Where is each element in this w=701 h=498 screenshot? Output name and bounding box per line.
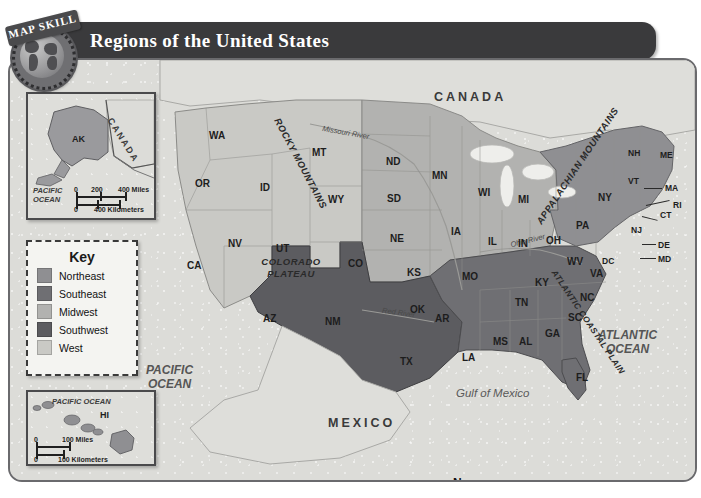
ak-scale-k400: 400 Kilometers [94, 206, 144, 213]
alaska-pacific-label: PACIFIC OCEAN [33, 186, 62, 204]
key-title: Key [28, 249, 136, 265]
key-row-southeast: Southeast [37, 286, 136, 301]
key-label-northeast: Northeast [59, 270, 105, 282]
key-label-southeast: Southeast [59, 288, 106, 300]
alaska-scale-bar: 0 200 400 Miles 0 400 Kilometers [76, 186, 152, 214]
hawaii-inset-map[interactable]: PACIFIC OCEAN HI 0 100 Miles 0 100 Kilom… [26, 390, 156, 466]
map-key: Key NortheastSoutheastMidwestSouthwestWe… [26, 240, 138, 376]
key-row-midwest: Midwest [37, 304, 136, 319]
alaska-inset-map[interactable]: AK CANADA PACIFIC OCEAN 0 200 400 Miles … [26, 92, 156, 220]
key-rows: NortheastSoutheastMidwestSouthwestWest [28, 268, 136, 355]
key-label-southwest: Southwest [59, 324, 108, 336]
hi-scale-m0: 0 [34, 436, 38, 443]
hawaii-state-label: HI [100, 410, 109, 420]
leader-line-md [640, 258, 656, 259]
key-swatch-southeast [37, 286, 52, 301]
key-row-west: West [37, 340, 136, 355]
map-page: MAP SKILL Regions of the United States [0, 0, 701, 498]
compass-rose: N [435, 478, 487, 482]
ak-scale-m0: 0 [74, 186, 78, 193]
key-row-southwest: Southwest [37, 322, 136, 337]
key-row-northeast: Northeast [37, 268, 136, 283]
hi-scale-m100: 100 Miles [62, 436, 93, 443]
leader-line-ma [644, 188, 662, 189]
ak-scale-m400: 400 Miles [118, 186, 149, 193]
badge-ribbon-label: MAP SKILL [5, 11, 80, 41]
hi-scale-k100: 100 Kilometers [58, 456, 108, 463]
page-title: Regions of the United States [90, 30, 329, 52]
key-swatch-southwest [37, 322, 52, 337]
hawaii-scale-bar: 0 100 Miles 0 100 Kilometers [36, 436, 120, 462]
title-bar: Regions of the United States [56, 22, 656, 60]
ak-scale-m200: 200 [91, 186, 103, 193]
key-swatch-west [37, 340, 52, 355]
ak-scale-k0: 0 [74, 206, 78, 213]
hawaii-pacific-label: PACIFIC OCEAN [52, 397, 111, 406]
key-swatch-midwest [37, 304, 52, 319]
map-skill-badge: MAP SKILL [4, 10, 82, 88]
hi-scale-k0: 0 [34, 456, 38, 463]
compass-north-label: N [453, 476, 462, 482]
key-label-midwest: Midwest [59, 306, 98, 318]
key-swatch-northeast [37, 268, 52, 283]
leader-line-de [642, 244, 656, 245]
alaska-state-label: AK [72, 134, 85, 144]
key-label-west: West [59, 342, 83, 354]
